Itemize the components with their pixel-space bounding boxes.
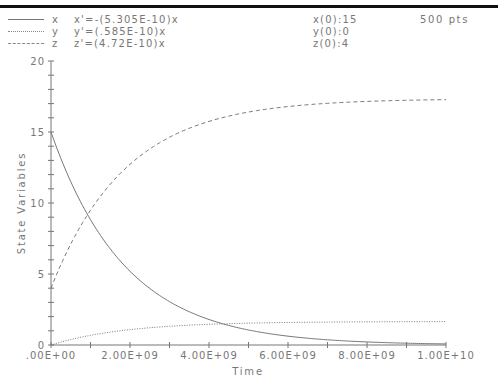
x-axis-title: Time bbox=[231, 366, 264, 377]
x-tick-label: 4.00E+09 bbox=[180, 350, 238, 361]
x-tick-label: .00E+00 bbox=[26, 350, 76, 361]
series-y-line bbox=[51, 322, 446, 345]
y-tick-label: 15 bbox=[30, 127, 45, 138]
y-tick-label: 5 bbox=[38, 269, 45, 280]
y-tick-label: 20 bbox=[30, 56, 45, 67]
x-tick-label: 2.00E+09 bbox=[101, 350, 159, 361]
x-tick-label: 6.00E+09 bbox=[259, 350, 317, 361]
y-tick-label: 10 bbox=[30, 198, 45, 209]
curves bbox=[51, 100, 446, 345]
series-x-line bbox=[51, 132, 446, 344]
x-tick-label: 1.00E+10 bbox=[417, 350, 475, 361]
series-z-line bbox=[51, 100, 446, 289]
x-tick-label: 8.00E+09 bbox=[338, 350, 396, 361]
y-axis-title: State Variables bbox=[16, 152, 27, 254]
axes: 05101520.00E+002.00E+094.00E+096.00E+098… bbox=[26, 56, 475, 361]
plot-area: 05101520.00E+002.00E+094.00E+096.00E+098… bbox=[0, 0, 498, 387]
